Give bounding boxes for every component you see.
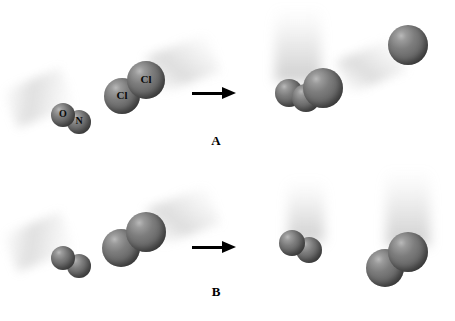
atom-cl: [388, 25, 428, 65]
atom-cl: [388, 232, 428, 272]
atom-label-o: O: [52, 109, 74, 119]
atom-o: [51, 246, 75, 270]
atom-label-cl: Cl: [111, 90, 133, 101]
reaction-arrow-b: [192, 240, 236, 254]
panel-caption-a: A: [204, 133, 228, 149]
atom-cl: [126, 212, 166, 252]
arrow-shaft: [192, 246, 224, 249]
panel-caption-b: B: [204, 284, 228, 300]
atom-cl: [303, 68, 343, 108]
arrow-head: [222, 241, 236, 253]
arrow-head: [222, 87, 236, 99]
molecular-collision-figure: NOClClAB: [0, 0, 455, 321]
arrow-shaft: [192, 92, 224, 95]
reaction-arrow-a: [192, 86, 236, 100]
atom-o: [279, 230, 305, 256]
atom-label-cl: Cl: [135, 74, 157, 85]
